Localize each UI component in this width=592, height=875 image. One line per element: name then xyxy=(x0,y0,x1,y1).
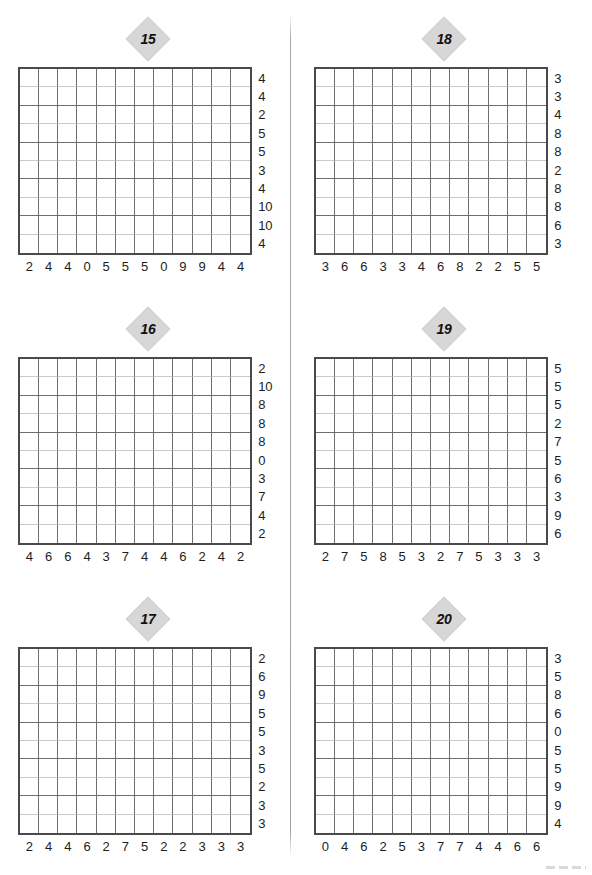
grid-cell[interactable] xyxy=(527,723,546,741)
grid-cell[interactable] xyxy=(77,106,96,124)
grid-cell[interactable] xyxy=(393,235,412,253)
grid-cell[interactable] xyxy=(489,796,508,814)
grid-cell[interactable] xyxy=(20,124,39,142)
grid-cell[interactable] xyxy=(135,704,154,722)
grid-cell[interactable] xyxy=(412,179,431,197)
grid-cell[interactable] xyxy=(154,704,173,722)
grid-cell[interactable] xyxy=(316,815,335,833)
grid-cell[interactable] xyxy=(373,359,392,377)
grid-cell[interactable] xyxy=(20,179,39,197)
grid-cell[interactable] xyxy=(373,778,392,796)
grid-cell[interactable] xyxy=(135,396,154,414)
grid-cell[interactable] xyxy=(373,161,392,179)
grid-cell[interactable] xyxy=(412,815,431,833)
grid-cell[interactable] xyxy=(469,488,488,506)
grid-cell[interactable] xyxy=(316,469,335,487)
grid-cell[interactable] xyxy=(335,377,354,395)
grid-cell[interactable] xyxy=(469,759,488,777)
grid-cell[interactable] xyxy=(335,451,354,469)
grid-cell[interactable] xyxy=(354,179,373,197)
grid-cell[interactable] xyxy=(335,796,354,814)
grid-cell[interactable] xyxy=(393,649,412,667)
grid-cell[interactable] xyxy=(431,396,450,414)
grid-cell[interactable] xyxy=(173,759,192,777)
grid-cell[interactable] xyxy=(212,451,231,469)
grid-cell[interactable] xyxy=(354,396,373,414)
grid-cell[interactable] xyxy=(77,488,96,506)
grid-cell[interactable] xyxy=(450,704,469,722)
grid-cell[interactable] xyxy=(58,161,77,179)
grid-cell[interactable] xyxy=(116,377,135,395)
grid-cell[interactable] xyxy=(116,686,135,704)
grid-cell[interactable] xyxy=(231,506,250,524)
grid-cell[interactable] xyxy=(469,778,488,796)
grid-cell[interactable] xyxy=(489,759,508,777)
grid-cell[interactable] xyxy=(154,69,173,87)
grid-cell[interactable] xyxy=(469,198,488,216)
grid-cell[interactable] xyxy=(335,161,354,179)
grid-cell[interactable] xyxy=(20,69,39,87)
grid-cell[interactable] xyxy=(20,741,39,759)
grid-cell[interactable] xyxy=(412,161,431,179)
grid-cell[interactable] xyxy=(212,106,231,124)
grid-cell[interactable] xyxy=(58,235,77,253)
grid-cell[interactable] xyxy=(212,469,231,487)
grid-cell[interactable] xyxy=(412,106,431,124)
grid-cell[interactable] xyxy=(77,161,96,179)
grid-cell[interactable] xyxy=(527,216,546,234)
grid-cell[interactable] xyxy=(489,124,508,142)
grid-cell[interactable] xyxy=(97,216,116,234)
grid-cell[interactable] xyxy=(373,796,392,814)
grid-cell[interactable] xyxy=(154,796,173,814)
grid-cell[interactable] xyxy=(527,686,546,704)
grid-cell[interactable] xyxy=(231,778,250,796)
grid-cell[interactable] xyxy=(77,433,96,451)
grid-cell[interactable] xyxy=(489,87,508,105)
grid-cell[interactable] xyxy=(527,396,546,414)
grid-cell[interactable] xyxy=(469,396,488,414)
grid-cell[interactable] xyxy=(412,667,431,685)
grid-cell[interactable] xyxy=(154,235,173,253)
grid-cell[interactable] xyxy=(508,704,527,722)
grid-cell[interactable] xyxy=(116,433,135,451)
grid-cell[interactable] xyxy=(193,488,212,506)
grid-cell[interactable] xyxy=(77,815,96,833)
grid-cell[interactable] xyxy=(212,216,231,234)
grid-cell[interactable] xyxy=(316,235,335,253)
grid-cell[interactable] xyxy=(489,488,508,506)
grid-cell[interactable] xyxy=(97,741,116,759)
grid-cell[interactable] xyxy=(116,179,135,197)
grid-cell[interactable] xyxy=(469,451,488,469)
grid-cell[interactable] xyxy=(116,815,135,833)
grid-cell[interactable] xyxy=(431,488,450,506)
grid-cell[interactable] xyxy=(77,359,96,377)
grid-cell[interactable] xyxy=(450,723,469,741)
grid-cell[interactable] xyxy=(193,216,212,234)
grid-cell[interactable] xyxy=(77,143,96,161)
grid-cell[interactable] xyxy=(354,778,373,796)
grid-cell[interactable] xyxy=(77,778,96,796)
grid-cell[interactable] xyxy=(431,377,450,395)
grid-cell[interactable] xyxy=(373,179,392,197)
grid-cell[interactable] xyxy=(154,216,173,234)
grid-cell[interactable] xyxy=(489,741,508,759)
grid-cell[interactable] xyxy=(316,198,335,216)
grid-cell[interactable] xyxy=(489,525,508,543)
grid-cell[interactable] xyxy=(154,741,173,759)
grid-cell[interactable] xyxy=(450,759,469,777)
grid-cell[interactable] xyxy=(212,778,231,796)
grid-cell[interactable] xyxy=(508,359,527,377)
grid-cell[interactable] xyxy=(412,778,431,796)
grid-cell[interactable] xyxy=(77,179,96,197)
grid-cell[interactable] xyxy=(373,469,392,487)
grid-cell[interactable] xyxy=(354,69,373,87)
grid-cell[interactable] xyxy=(431,649,450,667)
grid-cell[interactable] xyxy=(354,106,373,124)
grid-cell[interactable] xyxy=(116,124,135,142)
grid-cell[interactable] xyxy=(20,433,39,451)
grid-cell[interactable] xyxy=(212,87,231,105)
grid-cell[interactable] xyxy=(489,686,508,704)
grid-cell[interactable] xyxy=(173,704,192,722)
grid-cell[interactable] xyxy=(450,198,469,216)
grid-cell[interactable] xyxy=(527,667,546,685)
